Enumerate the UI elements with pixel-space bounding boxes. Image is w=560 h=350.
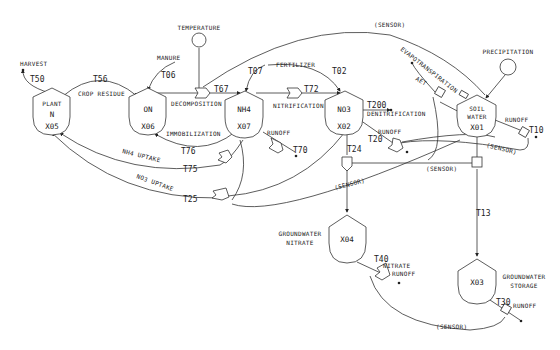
on-id: X06 [141, 122, 155, 131]
t70-code: T70 [293, 146, 308, 155]
nh4-uptake-valve [218, 150, 232, 163]
t25-code: T25 [183, 195, 198, 204]
t07-code: T07 [248, 67, 263, 76]
fertilizer-label: FERTILIZER [276, 61, 315, 68]
t40-code: T40 [374, 255, 389, 264]
t67-code: T67 [214, 85, 229, 94]
crop-residue-label: CROP RESIDUE [78, 90, 125, 97]
t13-code: T13 [476, 209, 491, 218]
soil-runoff-label: RUNOFF [505, 116, 529, 123]
t24-code: T24 [347, 145, 362, 154]
precipitation-label: PRECIPITATION [483, 48, 534, 55]
immobilization-label: IMMOBILIZATION [166, 130, 221, 137]
temperature-circle [192, 33, 206, 47]
t02-code: T02 [332, 67, 347, 76]
gws-id: X03 [470, 278, 484, 287]
sensor-arc-lower [232, 140, 460, 207]
decomposition-label: DECOMPOSITION [171, 100, 222, 107]
aet-sink-dot [411, 62, 414, 65]
nh4-uptake-flow [60, 133, 243, 169]
nh4-runoff-label: RUNOFF [267, 129, 291, 136]
water-label: WATER [467, 113, 487, 120]
temperature-label: TEMPERATURE [177, 24, 220, 31]
et-valve [459, 90, 468, 98]
precipitation-flow [486, 75, 505, 98]
no3-uptake-source [228, 132, 345, 196]
nh4-label: NH4 [237, 105, 251, 114]
no3-uptake-label: NO3 UPTAKE [136, 172, 175, 192]
t40-sink [398, 282, 401, 285]
t30-sink [520, 320, 523, 323]
t13-valve [472, 157, 482, 167]
t20-code: T20 [368, 135, 383, 144]
plant-n-label: N [50, 110, 55, 119]
t30-code: T30 [496, 298, 511, 307]
soil-label: SOIL [469, 105, 485, 112]
nh4-runoff-sink [295, 155, 298, 158]
precipitation-circle [500, 59, 516, 75]
soil-runoff-sink [535, 136, 538, 139]
sensor-label-bottom: (SENSOR) [436, 323, 467, 330]
harvest-sink-dot [22, 69, 25, 72]
aet-valve [435, 87, 446, 98]
leaching-valve [342, 157, 352, 171]
gws-label-1: GROUNDWATER [502, 273, 545, 280]
harvest-label: HARVEST [20, 60, 47, 67]
gwn-label-1: GROUNDWATER [278, 230, 321, 237]
no3-id: X02 [337, 122, 351, 131]
gwn-label-2: NITRATE [286, 239, 313, 246]
gws-runoff-label: RUNOFF [513, 302, 537, 309]
no3-runoff-label: RUNOFF [378, 128, 402, 135]
t76-code: T76 [181, 147, 196, 156]
t10-code: T10 [529, 126, 544, 135]
sensor-label-horizontal: (SENSOR) [426, 165, 457, 172]
nitrate-runoff-label-2: RUNOFF [392, 270, 416, 277]
no3-uptake-valve [212, 188, 229, 200]
plant-id: X05 [45, 122, 59, 131]
no3-runoff-valve [388, 138, 403, 152]
on-label: ON [143, 105, 152, 114]
sensor-label-soil: (SENSOR) [486, 141, 518, 155]
nitrification-label: NITRIFICATION [273, 102, 324, 109]
nh4-uptake-link [232, 140, 244, 200]
gwn-id: X04 [340, 235, 354, 244]
sensor-label-top: (SENSOR) [374, 21, 405, 28]
manure-label: MANURE [157, 54, 181, 61]
no3-runoff-sink [406, 151, 409, 154]
soil-id: X01 [470, 123, 484, 132]
t200-code: T200 [367, 101, 386, 110]
flow-diagram: PLANT N X05 ON X06 NH4 X07 NO3 X02 SOIL … [0, 0, 560, 350]
t56-code: T56 [93, 75, 108, 84]
nh4-runoff-valve [269, 138, 283, 153]
t06-code: T06 [161, 71, 176, 80]
denitrification-label: DENITRIFICATION [367, 110, 426, 117]
sensor-label-mid: (SENSOR) [334, 177, 366, 191]
soil-runoff-valve [519, 127, 530, 138]
t75-code: T75 [183, 165, 198, 174]
t50-code: T50 [30, 75, 45, 84]
nh4-id: X07 [237, 122, 251, 131]
nh4-uptake-label: NH4 UPTAKE [122, 147, 162, 163]
plant-label: PLANT [42, 100, 62, 107]
aet-label: AET [415, 75, 429, 87]
t72-code: T72 [304, 85, 319, 94]
evapotranspiration-label: EVAPOTRANSPIRATION [399, 45, 459, 94]
sensor-arc-top [203, 32, 485, 95]
gws-label-2: STORAGE [510, 282, 537, 289]
no3-label: NO3 [337, 105, 351, 114]
